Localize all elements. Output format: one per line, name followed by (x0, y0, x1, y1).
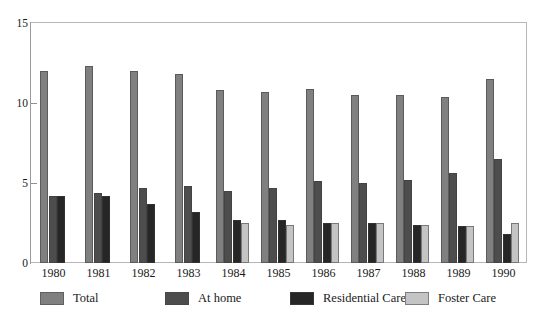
legend-swatch-icon (405, 292, 429, 305)
bar (286, 225, 294, 263)
bar-chart: 051015 198019811982198319841985198619871… (0, 0, 545, 313)
legend-swatch-icon (290, 292, 314, 305)
x-tick-label: 1983 (177, 266, 201, 280)
bar (421, 225, 429, 263)
bar (494, 159, 502, 263)
bar (331, 223, 339, 263)
bar (351, 95, 359, 263)
bar (184, 186, 192, 263)
bar (94, 193, 102, 263)
bar (85, 66, 93, 263)
bar (368, 223, 376, 263)
bar (441, 97, 449, 263)
bar (449, 173, 457, 263)
bar (413, 225, 421, 263)
bar-group (256, 23, 301, 263)
bar (233, 220, 241, 263)
bar (404, 180, 412, 263)
chart-legend: TotalAt homeResidential CareFoster Care (0, 290, 545, 310)
x-tick-label: 1981 (87, 266, 111, 280)
y-tick-label: 5 (2, 178, 28, 189)
legend-label: Foster Care (438, 291, 496, 305)
y-axis-labels: 051015 (0, 0, 28, 313)
bar-group (346, 23, 391, 263)
bar (224, 191, 232, 263)
x-tick-label: 1982 (132, 266, 156, 280)
bar-group (391, 23, 436, 263)
bar (278, 220, 286, 263)
legend-item[interactable]: At home (165, 290, 241, 306)
legend-swatch-icon (40, 292, 64, 305)
bar-group (166, 23, 211, 263)
legend-item[interactable]: Residential Care (290, 290, 406, 306)
x-tick-label: 1984 (222, 266, 246, 280)
bars-layer (31, 23, 526, 263)
bar (261, 92, 269, 263)
x-tick-label: 1980 (42, 266, 66, 280)
x-tick-label: 1990 (492, 266, 516, 280)
bar-group (481, 23, 526, 263)
x-axis-labels: 1980198119821983198419851986198719881989… (31, 266, 526, 284)
bar (40, 71, 48, 263)
bar (49, 196, 57, 263)
bar-group (436, 23, 481, 263)
bar (396, 95, 404, 263)
bar (175, 74, 183, 263)
bar-group (121, 23, 166, 263)
legend-label: At home (198, 291, 241, 305)
bar (359, 183, 367, 263)
bar (323, 223, 331, 263)
bar (139, 188, 147, 263)
bar-group (301, 23, 346, 263)
bar (241, 223, 249, 263)
bar (192, 212, 200, 263)
y-tick-label: 10 (2, 98, 28, 109)
x-tick-label: 1989 (447, 266, 471, 280)
legend-item[interactable]: Foster Care (405, 290, 496, 306)
bar-group (211, 23, 256, 263)
x-tick-label: 1985 (267, 266, 291, 280)
x-tick-label: 1986 (312, 266, 336, 280)
legend-label: Residential Care (323, 291, 406, 305)
bar (102, 196, 110, 263)
bar (314, 181, 322, 263)
bar (306, 89, 314, 263)
bar (269, 188, 277, 263)
bar (376, 223, 384, 263)
bar (486, 79, 494, 263)
bar (503, 234, 511, 263)
x-tick-label: 1988 (402, 266, 426, 280)
bar (57, 196, 65, 263)
bar-group (76, 23, 121, 263)
bar (511, 223, 519, 263)
y-tick-label: 15 (2, 18, 28, 29)
legend-item[interactable]: Total (40, 290, 99, 306)
bar (458, 226, 466, 263)
y-tick-label: 0 (2, 258, 28, 269)
bar (130, 71, 138, 263)
bar (466, 226, 474, 263)
bar (147, 204, 155, 263)
x-tick-label: 1987 (357, 266, 381, 280)
bar-group (31, 23, 76, 263)
legend-label: Total (73, 291, 99, 305)
bar (216, 90, 224, 263)
legend-swatch-icon (165, 292, 189, 305)
